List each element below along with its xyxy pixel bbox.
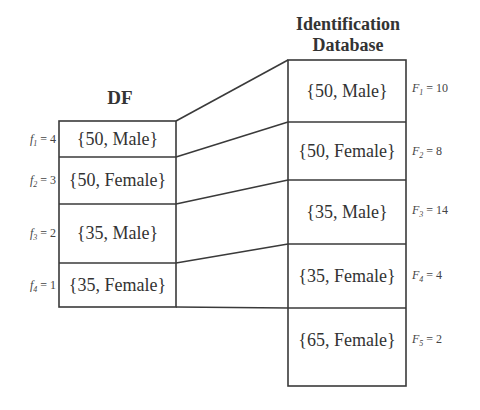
connector-line xyxy=(176,122,288,157)
db-row-4: {35, Female} xyxy=(288,244,406,308)
db-frequency-label: F3 = 14 xyxy=(412,203,448,219)
db-frequency-label: F2 = 8 xyxy=(412,144,442,160)
db-row-2: {50, Female} xyxy=(288,122,406,180)
db-frequency-label: F5 = 2 xyxy=(412,332,442,348)
db-row-1: {50, Male} xyxy=(288,60,406,122)
df-row-4: {35, Female} xyxy=(59,263,176,307)
db-row-5: {65, Female} xyxy=(288,308,406,372)
db-frequency-label: F4 = 4 xyxy=(412,268,442,284)
df-frequency-label: f2 = 3 xyxy=(30,173,56,189)
df-frequency-label: f1 = 4 xyxy=(30,132,56,148)
db-row-3: {35, Male} xyxy=(288,180,406,244)
connector-line xyxy=(176,60,288,121)
df-frequency-label: f4 = 1 xyxy=(30,278,56,294)
connector-line xyxy=(176,180,288,204)
df-row-2: {50, Female} xyxy=(59,157,176,204)
df-row-3: {35, Male} xyxy=(59,204,176,263)
df-row-1: {50, Male} xyxy=(59,121,176,157)
connector-line xyxy=(176,244,288,263)
df-frequency-label: f3 = 2 xyxy=(30,226,56,242)
connector-line xyxy=(176,307,288,308)
db-frequency-label: F1 = 10 xyxy=(412,81,448,97)
